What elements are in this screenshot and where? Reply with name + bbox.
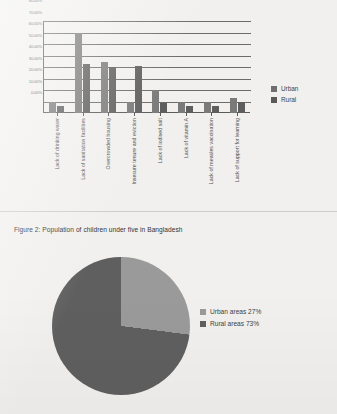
legend-label-urban: Urban: [281, 85, 298, 92]
x-axis-tick: [121, 113, 147, 117]
x-axis-category-label: Lack of support for learning: [234, 118, 240, 182]
pie-legend-label-urban: Urban areas 27%: [210, 308, 261, 315]
bar-urban: [127, 102, 134, 114]
x-axis-category-label: Insecure tenure and eviction: [131, 118, 137, 185]
bar-rural: [109, 67, 116, 113]
x-axis-category-label: Lack of drinking water: [54, 118, 60, 170]
y-axis-tick-label: 80.00%: [0, 0, 42, 3]
bar-group: [173, 21, 199, 113]
legend-swatch-urban-icon: [271, 86, 277, 92]
x-axis-tick: [199, 113, 225, 117]
bar-rural: [238, 102, 245, 113]
pie-chart-figure: Figure 2: Population of children under f…: [0, 212, 337, 414]
x-axis-tick: [44, 113, 70, 117]
bar-rural: [135, 66, 142, 113]
bar-group: [96, 21, 122, 113]
x-axis-tick: [224, 113, 250, 117]
x-axis-label-cell: Lack of sanitation facilities: [70, 118, 96, 206]
x-axis-label-cell: Lack of drinking water: [44, 118, 70, 206]
y-axis-tick-labels: 80.00%70.00%60.00%50.00%40.00%30.00%20.0…: [0, 0, 42, 92]
figure-2-caption: Figure 2: Population of children under f…: [14, 226, 183, 233]
x-axis-tick: [147, 113, 173, 117]
x-axis-category-label: Overcrowded housing: [105, 118, 111, 169]
x-axis-category-label: Lack of vitamin A: [183, 118, 189, 158]
y-axis-tick-label: 30.00%: [0, 56, 42, 61]
y-axis-tick-label: 50.00%: [0, 33, 42, 38]
y-axis-tick-label: 10.00%: [0, 79, 42, 84]
legend-item-rural: Rural: [271, 96, 298, 103]
pie-legend-item-rural: Rural areas 73%: [200, 320, 261, 327]
pie-legend-item-urban: Urban areas 27%: [200, 308, 261, 315]
y-axis-tick-label: 20.00%: [0, 67, 42, 72]
bar-urban: [49, 102, 56, 114]
bar-group: [121, 21, 147, 113]
bar-rural: [57, 106, 64, 113]
x-axis-label-cell: Lack of iodised salt: [147, 118, 173, 206]
bar-urban: [178, 102, 185, 114]
y-axis-tick-label: 40.00%: [0, 44, 42, 49]
x-axis-label-cell: Lack of support for learning: [224, 118, 250, 206]
legend-item-urban: Urban: [271, 85, 298, 92]
x-axis-tick: [96, 113, 122, 117]
bar-group: [199, 21, 225, 113]
x-axis-ticks: [44, 113, 250, 117]
bar-group: [224, 21, 250, 113]
x-axis-category-label: Lack of measles vaccination: [208, 118, 214, 184]
x-axis-category-label: Lack of sanitation facilities: [80, 118, 86, 180]
x-axis-category-label: Lack of iodised salt: [157, 118, 163, 163]
bar-rural: [160, 103, 167, 113]
bar-chart-series-area: [44, 21, 250, 113]
bar-urban: [75, 33, 82, 114]
y-axis-tick-label: 60.00%: [0, 21, 42, 26]
legend-label-rural: Rural: [281, 96, 296, 103]
bar-rural: [83, 64, 90, 113]
x-axis-category-labels: Lack of drinking waterLack of sanitation…: [44, 118, 250, 206]
pie-legend-swatch-rural-icon: [200, 321, 206, 327]
bar-group: [147, 21, 173, 113]
pie-chart-graphic: [52, 257, 190, 395]
x-axis-label-cell: Lack of vitamin A: [173, 118, 199, 206]
x-axis-tick: [70, 113, 96, 117]
bar-urban: [204, 102, 211, 114]
bar-group: [44, 21, 70, 113]
bar-urban: [230, 98, 237, 113]
bar-chart-legend: Urban Rural: [271, 85, 298, 103]
x-axis-tick: [173, 113, 199, 117]
x-axis-label-cell: Insecure tenure and eviction: [121, 118, 147, 206]
y-axis-tick-label: 70.00%: [0, 10, 42, 15]
bar-rural: [212, 106, 219, 113]
bar-rural: [186, 106, 193, 113]
legend-swatch-rural-icon: [271, 97, 277, 103]
bar-group: [70, 21, 96, 113]
x-axis-label-cell: Lack of measles vaccination: [199, 118, 225, 206]
pie-legend-label-rural: Rural areas 73%: [210, 320, 259, 327]
bar-urban: [152, 90, 159, 113]
bar-urban: [101, 62, 108, 113]
pie-legend-swatch-urban-icon: [200, 309, 206, 315]
x-axis-label-cell: Overcrowded housing: [96, 118, 122, 206]
pie-chart-legend: Urban areas 27% Rural areas 73%: [200, 308, 261, 327]
bar-chart-figure: 80.00%70.00%60.00%50.00%40.00%30.00%20.0…: [0, 0, 337, 210]
y-axis-tick-label: 0.00%: [0, 90, 42, 95]
